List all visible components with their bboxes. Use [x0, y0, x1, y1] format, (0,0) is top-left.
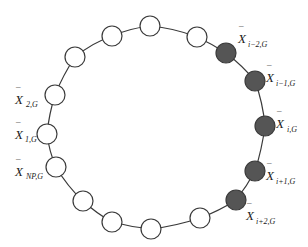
label-x-i-minus-1-g: X ¯ i−1,G: [265, 64, 296, 88]
individual-node: [73, 191, 93, 211]
selected-individual-node: [255, 116, 275, 136]
svg-text:¯: ¯: [266, 64, 272, 74]
population-nodes: [37, 16, 275, 239]
svg-text:i,G: i,G: [287, 125, 297, 134]
selected-individual-node: [245, 161, 265, 181]
individual-node: [141, 219, 161, 239]
individual-node: [190, 208, 210, 228]
individual-node: [140, 16, 160, 36]
individual-node: [37, 124, 57, 144]
selected-individual-node: [245, 71, 265, 91]
label-x-np-g: X ¯ NP,G: [14, 158, 43, 181]
individual-node: [65, 47, 85, 67]
label-x-i-plus-2-g: X ¯ i+2,G: [245, 202, 276, 226]
individual-node: [102, 26, 122, 46]
label-x-i-plus-1-g: X ¯ i+1,G: [265, 162, 296, 186]
svg-text:1,G: 1,G: [25, 135, 37, 144]
svg-text:¯: ¯: [15, 158, 21, 168]
svg-text:¯: ¯: [276, 110, 282, 120]
svg-text:NP,G: NP,G: [25, 172, 43, 181]
individual-node: [187, 27, 207, 47]
svg-text:¯: ¯: [246, 202, 252, 212]
svg-text:i+1,G: i+1,G: [276, 177, 296, 186]
svg-text:i+2,G: i+2,G: [256, 217, 276, 226]
svg-text:¯: ¯: [15, 86, 21, 96]
individual-node: [102, 212, 122, 232]
individual-node: [45, 85, 65, 105]
svg-text:2,G: 2,G: [26, 100, 38, 109]
label-x-2-g: X ¯ 2,G: [14, 86, 38, 109]
svg-text:¯: ¯: [15, 121, 21, 131]
selected-individual-node: [216, 43, 236, 63]
label-x-1-g: X ¯ 1,G: [14, 121, 37, 144]
svg-text:i−1,G: i−1,G: [276, 79, 296, 88]
svg-text:i−2,G: i−2,G: [248, 40, 268, 49]
individual-node: [46, 157, 66, 177]
svg-text:¯: ¯: [238, 25, 244, 35]
svg-text:¯: ¯: [266, 162, 272, 172]
ring-diagram: X ¯ 2,G X ¯ 1,G X ¯ NP,G X ¯ i−2,G X ¯ i…: [0, 0, 308, 247]
label-x-i-g: X ¯ i,G: [275, 110, 297, 134]
selected-individual-node: [226, 190, 246, 210]
label-x-i-minus-2-g: X ¯ i−2,G: [237, 25, 268, 49]
